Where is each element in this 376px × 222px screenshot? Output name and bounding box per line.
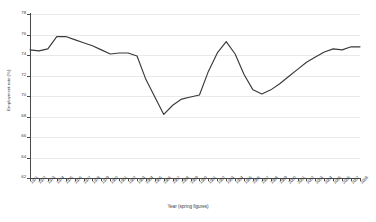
employment-rate-series xyxy=(30,37,360,115)
employment-rate-line-chart: Employment rate (%) 626466687072747678 1… xyxy=(0,0,376,222)
series-layer xyxy=(0,0,376,222)
x-axis-title: Year (spring figures) xyxy=(0,205,376,210)
